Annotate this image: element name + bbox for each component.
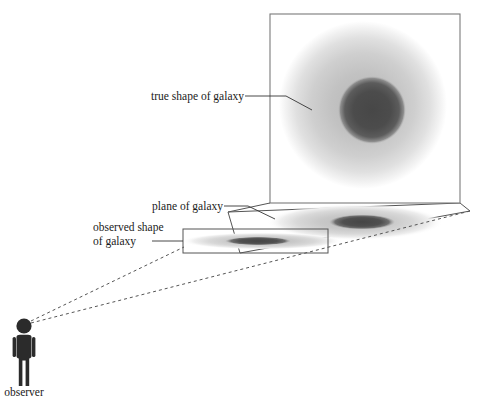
- leader-line-plane-of-galaxy: [224, 206, 275, 219]
- face-on-galaxy-frame-group: [270, 14, 460, 203]
- observer-figure: [13, 318, 36, 386]
- label-plane-of-galaxy: plane of galaxy: [152, 200, 223, 213]
- label-observed-shape-line1: observed shape: [93, 221, 164, 234]
- observer-right-arm-icon: [32, 337, 35, 357]
- sight-line-upper: [31, 247, 184, 321]
- face-on-galaxy-image: [279, 21, 447, 189]
- diagram-canvas: true shape of galaxy plane of galaxy obs…: [0, 0, 477, 400]
- observer-left-arm-icon: [13, 337, 16, 357]
- observer-head-icon: [16, 318, 31, 333]
- label-observed-shape-line2: of galaxy: [93, 235, 136, 248]
- observed-galaxy-flattened: [182, 233, 342, 250]
- label-observer: observer: [4, 386, 44, 398]
- observer-body-icon: [17, 335, 32, 386]
- galaxy-projection-diagram: true shape of galaxy plane of galaxy obs…: [0, 0, 477, 400]
- label-true-shape-of-galaxy: true shape of galaxy: [151, 90, 244, 103]
